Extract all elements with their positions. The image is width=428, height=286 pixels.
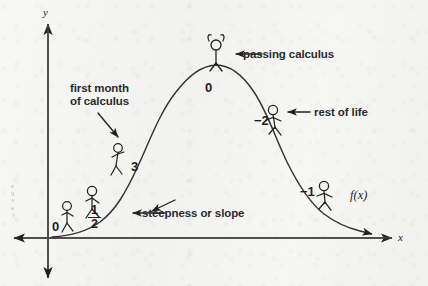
- slope-label-minus-one: −1: [300, 184, 315, 199]
- curve-label-fx: f(x): [350, 188, 367, 203]
- stick-figure-origin: [62, 202, 73, 232]
- y-axis-label: y: [43, 6, 48, 18]
- stick-figure-steep: [111, 144, 124, 175]
- slope-label-three: 3: [131, 159, 138, 174]
- stick-figure-minus-one: [317, 181, 332, 210]
- margin-line-6: .: [13, 219, 14, 225]
- margin-line-2: g: [11, 190, 14, 196]
- margin-line-3: s: [11, 197, 14, 203]
- slope-label-origin: 0: [52, 219, 59, 234]
- annotation-first-month: first month of calculus: [70, 82, 129, 108]
- slope-label-minus-two: −2: [254, 113, 269, 128]
- annotation-rest-of-life: rest of life: [314, 106, 368, 119]
- annotation-passing-calculus: passing calculus: [243, 48, 334, 61]
- annotation-first-month-line2: of calculus: [70, 95, 129, 107]
- annotation-first-month-line1: first month: [70, 82, 129, 94]
- margin-line-5: r: [12, 212, 14, 218]
- slope-half-numerator: 1: [91, 203, 98, 217]
- margin-line-1: e: [11, 183, 14, 189]
- curve-end-arrow: [360, 231, 372, 234]
- x-axis-label: x: [398, 231, 403, 243]
- margin-caption-fragment: e g s e r .: [0, 183, 14, 226]
- margin-line-4: e: [11, 205, 14, 211]
- annotation-steepness-or-slope: steepness or slope: [142, 207, 244, 220]
- leader-first-month: [98, 113, 118, 137]
- slope-label-peak: 0: [205, 80, 212, 95]
- slope-half-denominator: 2: [91, 217, 98, 231]
- slope-label-half: 1 2: [88, 205, 101, 230]
- calculus-figure: [0, 0, 428, 286]
